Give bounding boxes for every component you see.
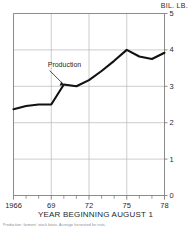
chart-container: BIL. LB. 012345 196669727578 Production … bbox=[0, 0, 191, 234]
x-tick-label-72: 72 bbox=[76, 201, 102, 210]
x-axis-title: YEAR BEGINNING AUGUST 1 bbox=[0, 210, 191, 219]
y-tick-label-3: 3 bbox=[170, 82, 182, 91]
y-tick-label-1: 1 bbox=[170, 155, 182, 164]
series-annotation-production: Production bbox=[48, 61, 81, 68]
x-tick-label-75: 75 bbox=[114, 201, 140, 210]
plot-area-svg bbox=[0, 0, 191, 234]
x-tick-label-78: 78 bbox=[152, 201, 178, 210]
y-tick-label-5: 5 bbox=[170, 9, 182, 18]
chart-footnote: Production: farmers' stock basis. Acreag… bbox=[3, 223, 106, 227]
x-tick-label-1966: 1966 bbox=[1, 201, 27, 210]
x-tick-label-69: 69 bbox=[38, 201, 64, 210]
y-tick-label-4: 4 bbox=[170, 45, 182, 54]
y-tick-label-2: 2 bbox=[170, 118, 182, 127]
tick-marks-group bbox=[14, 14, 168, 200]
annotation-leader-line bbox=[50, 71, 64, 86]
y-tick-label-0: 0 bbox=[170, 191, 182, 200]
